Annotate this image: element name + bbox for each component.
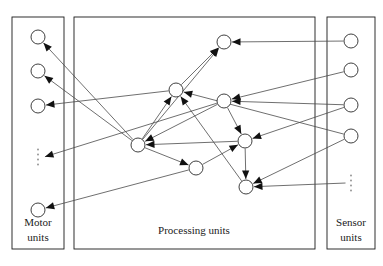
sensor-units-label-line1: Sensor: [336, 216, 366, 228]
arrow-head-icon: [234, 125, 241, 134]
unit-node-m2: [31, 64, 45, 78]
edge-line: [46, 170, 189, 208]
arrow-head-icon: [232, 38, 241, 45]
motor-units-label-line2: units: [27, 231, 48, 243]
unit-node-p7: [239, 180, 253, 194]
motor-ellipsis: [37, 149, 39, 166]
nodes-layer: [31, 30, 358, 217]
processing-units-box: [74, 17, 315, 249]
edge: [43, 43, 132, 140]
arrow-head-icon: [45, 151, 54, 158]
edge-line: [184, 92, 344, 134]
arrow-head-icon: [184, 91, 193, 98]
edge-line: [253, 139, 344, 183]
ellipsis-dot: [350, 190, 352, 192]
edge: [184, 91, 344, 134]
unit-node-m3: [31, 99, 45, 113]
arrow-head-icon: [242, 170, 249, 179]
unit-node-p2: [169, 83, 183, 97]
unit-node-p5: [238, 134, 252, 148]
unit-node-s4: [344, 129, 358, 143]
edge: [146, 141, 238, 148]
ellipsis-dot: [37, 154, 39, 156]
ellipsis-dot: [37, 164, 39, 166]
edge: [203, 145, 238, 165]
arrow-head-icon: [229, 145, 238, 152]
edge-line: [253, 107, 344, 138]
edge-line: [146, 141, 238, 144]
unit-node-m1: [31, 30, 45, 44]
edge-line: [43, 43, 132, 140]
edge: [142, 97, 171, 139]
edge-line: [254, 183, 346, 187]
arrow-head-icon: [164, 97, 172, 106]
unit-node-s3: [344, 98, 358, 112]
edge: [254, 183, 346, 190]
sensor-ellipsis: [350, 175, 352, 192]
arrow-head-icon: [181, 96, 189, 105]
unit-node-p1: [217, 35, 231, 49]
ellipsis-dot: [350, 180, 352, 182]
edge: [253, 107, 344, 139]
arrow-head-icon: [254, 183, 263, 190]
edge-line: [44, 76, 132, 141]
edge: [242, 149, 249, 180]
arrow-head-icon: [179, 159, 188, 166]
unit-node-p6: [189, 161, 203, 175]
arrow-head-icon: [253, 132, 262, 139]
unit-node-s2: [344, 63, 358, 77]
edges-layer: [43, 38, 345, 209]
arrow-head-icon: [46, 101, 55, 108]
unit-node-p3: [217, 94, 231, 108]
unit-node-m4: [31, 203, 45, 217]
arrow-head-icon: [44, 76, 53, 84]
arrow-head-icon: [146, 141, 155, 148]
group-boxes: [12, 17, 375, 249]
edge: [46, 170, 189, 209]
ellipsis-dot: [350, 175, 352, 177]
unit-node-s1: [344, 34, 358, 48]
edge: [227, 108, 241, 134]
edge: [44, 76, 132, 141]
sensor-units-label-line2: units: [340, 231, 361, 243]
ellipsis-dot: [37, 159, 39, 161]
network-diagram: Motor units Processing units Sensor unit…: [0, 0, 383, 266]
ellipsis-dot: [350, 185, 352, 187]
edge: [253, 139, 344, 183]
unit-node-p4: [131, 138, 145, 152]
ellipsis-dot: [37, 149, 39, 151]
edge: [145, 148, 189, 166]
diagram-canvas: Motor units Processing units Sensor unit…: [0, 0, 383, 266]
processing-units-label: Processing units: [158, 224, 230, 236]
motor-units-label-line1: Motor: [24, 216, 52, 228]
arrow-head-icon: [46, 202, 55, 209]
